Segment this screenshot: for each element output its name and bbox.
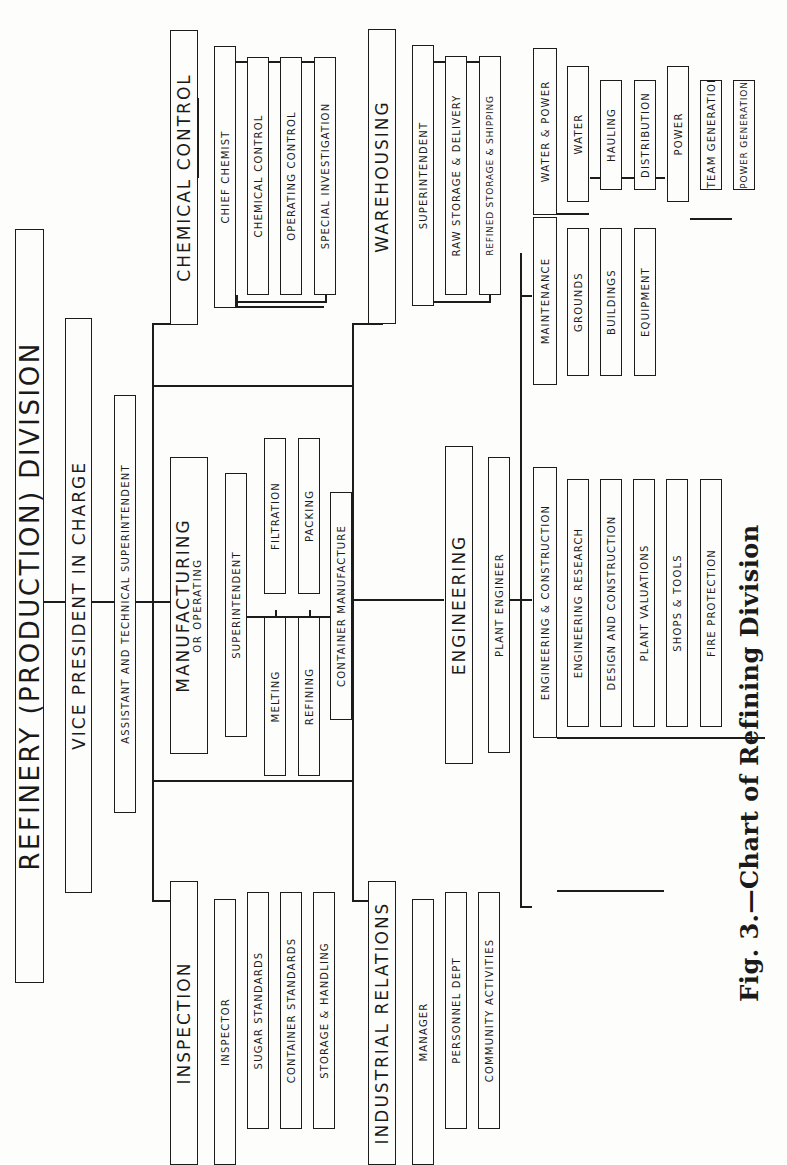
filtration-unit: FILTRATION	[264, 438, 286, 594]
manufacturing-head-label: MANUFACTURING OR OPERATING	[175, 518, 203, 692]
special-investigation-unit: SPECIAL INVESTIGATION	[314, 57, 336, 295]
division-title-text: REFINERY (PRODUCTION) DIVISION	[15, 341, 44, 870]
unit-text: HAULING	[606, 108, 617, 162]
manufacturing-head-subtext: OR OPERATING	[193, 558, 203, 652]
figure-caption: Fig. 3.—Chart of Refining Division	[735, 483, 764, 1043]
connector	[557, 737, 765, 739]
unit-text: DISTRIBUTION	[640, 92, 651, 178]
superintendent-text: SUPERINTENDENT	[231, 551, 242, 659]
connector	[236, 306, 324, 308]
unit-text: POWER GENERATION	[739, 81, 749, 188]
fire-protection-unit: FIRE PROTECTION	[700, 479, 722, 727]
storage-handling-unit: STORAGE & HANDLING	[313, 892, 335, 1129]
connector	[690, 218, 732, 220]
inspector-text: INSPECTOR	[220, 998, 231, 1066]
vp-box: VICE PRESIDENT IN CHARGE	[65, 318, 92, 893]
maintenance-head: MAINTENANCE	[533, 217, 557, 385]
power-head-text: POWER	[673, 112, 684, 155]
connector	[352, 599, 444, 601]
warehousing-head: WAREHOUSING	[368, 29, 396, 324]
unit-text: PERSONNEL DEPT	[451, 957, 462, 1064]
connector	[520, 295, 532, 297]
connector	[557, 213, 589, 215]
industrial-relations-head: INDUSTRIAL RELATIONS	[368, 881, 396, 1165]
unit-text: FILTRATION	[270, 482, 281, 550]
plant-engineer-box: PLANT ENGINEER	[488, 457, 510, 753]
connector	[520, 599, 532, 601]
container-standards-unit: CONTAINER STANDARDS	[280, 892, 302, 1129]
water-head: WATER	[567, 66, 589, 202]
power-generation-unit: POWER GENERATION	[733, 80, 755, 190]
container-manufacture-unit: CONTAINER MANUFACTURE	[330, 492, 352, 720]
connector	[236, 301, 326, 303]
connector	[434, 301, 490, 303]
design-construction-unit: DESIGN AND CONSTRUCTION	[600, 479, 622, 727]
unit-text: PLANT VALUATIONS	[639, 545, 650, 662]
unit-text: STEAM GENERATION	[706, 80, 717, 190]
refined-storage-unit: REFINED STORAGE & SHIPPING	[479, 56, 501, 295]
warehousing-superintendent-box: SUPERINTENDENT	[412, 45, 434, 306]
sugar-standards-unit: SUGAR STANDARDS	[247, 892, 269, 1129]
grounds-unit: GROUNDS	[567, 228, 589, 376]
connector	[135, 601, 170, 603]
chief-chemist-box: CHIEF CHEMIST	[214, 46, 236, 308]
power-head: POWER	[667, 66, 689, 202]
manager-box: MANAGER	[412, 899, 434, 1165]
vp-text: VICE PRESIDENT IN CHARGE	[69, 461, 89, 750]
community-activities-unit: COMMUNITY ACTIVITIES	[478, 892, 500, 1129]
engineering-head-text: ENGINEERING	[449, 535, 469, 676]
water-head-text: WATER	[573, 114, 584, 155]
unit-text: DESIGN AND CONSTRUCTION	[606, 516, 617, 691]
engineering-research-unit: ENGINEERING RESEARCH	[567, 479, 589, 727]
plant-engineer-text: PLANT ENGINEER	[494, 553, 505, 657]
shops-tools-unit: SHOPS & TOOLS	[666, 479, 688, 727]
connector	[325, 295, 327, 303]
unit-text: EQUIPMENT	[640, 267, 651, 337]
assistant-text: ASSISTANT AND TECHNICAL SUPERINTENDENT	[120, 464, 131, 743]
refining-unit: REFINING	[298, 617, 320, 776]
unit-text: RAW STORAGE & DELIVERY	[451, 94, 462, 256]
connector	[152, 385, 352, 387]
unit-text: SHOPS & TOOLS	[672, 554, 683, 652]
packing-unit: PACKING	[298, 438, 320, 594]
engineering-construction-head: ENGINEERING & CONSTRUCTION	[533, 467, 557, 738]
personnel-dept-unit: PERSONNEL DEPT	[445, 892, 467, 1129]
superintendent-text: SUPERINTENDENT	[418, 122, 429, 230]
manufacturing-superintendent-box: SUPERINTENDENT	[225, 473, 247, 737]
unit-text: PACKING	[304, 490, 315, 542]
connector	[489, 295, 491, 303]
unit-text: SUGAR STANDARDS	[253, 952, 264, 1070]
chemical-control-unit: CHEMICAL CONTROL	[247, 57, 269, 295]
water-power-head-text: WATER & POWER	[540, 81, 551, 183]
division-title: REFINERY (PRODUCTION) DIVISION	[15, 229, 44, 983]
unit-text: ENGINEERING RESEARCH	[573, 528, 584, 679]
manufacturing-head: MANUFACTURING OR OPERATING	[170, 457, 208, 754]
assistant-superintendent-box: ASSISTANT AND TECHNICAL SUPERINTENDENT	[114, 395, 136, 813]
melting-unit: MELTING	[264, 617, 286, 776]
unit-text: REFINED STORAGE & SHIPPING	[485, 95, 495, 256]
buildings-unit: BUILDINGS	[600, 228, 622, 376]
inspection-head: INSPECTION	[170, 881, 198, 1165]
unit-text: STORAGE & HANDLING	[319, 942, 330, 1079]
distribution-unit: DISTRIBUTION	[634, 80, 656, 190]
unit-text: CHEMICAL CONTROL	[253, 115, 264, 238]
chemical-control-head-text: CHEMICAL CONTROL	[174, 73, 194, 281]
unit-text: CONTAINER STANDARDS	[286, 938, 297, 1084]
engineering-construction-head-text: ENGINEERING & CONSTRUCTION	[540, 505, 551, 701]
engineering-head: ENGINEERING	[445, 446, 473, 764]
unit-text: CONTAINER MANUFACTURE	[336, 525, 347, 687]
warehousing-head-text: WAREHOUSING	[372, 100, 392, 252]
steam-generation-unit: STEAM GENERATION	[700, 80, 722, 190]
hauling-unit: HAULING	[600, 80, 622, 190]
unit-text: SPECIAL INVESTIGATION	[320, 103, 331, 250]
raw-storage-unit: RAW STORAGE & DELIVERY	[445, 56, 467, 295]
unit-text: GROUNDS	[573, 272, 584, 332]
equipment-unit: EQUIPMENT	[634, 228, 656, 376]
operating-control-unit: OPERATING CONTROL	[280, 57, 302, 295]
manager-text: MANAGER	[418, 1002, 429, 1061]
unit-text: BUILDINGS	[606, 269, 617, 335]
maintenance-head-text: MAINTENANCE	[540, 258, 551, 345]
manufacturing-head-text: MANUFACTURING	[175, 518, 192, 692]
unit-text: OPERATING CONTROL	[286, 111, 297, 241]
